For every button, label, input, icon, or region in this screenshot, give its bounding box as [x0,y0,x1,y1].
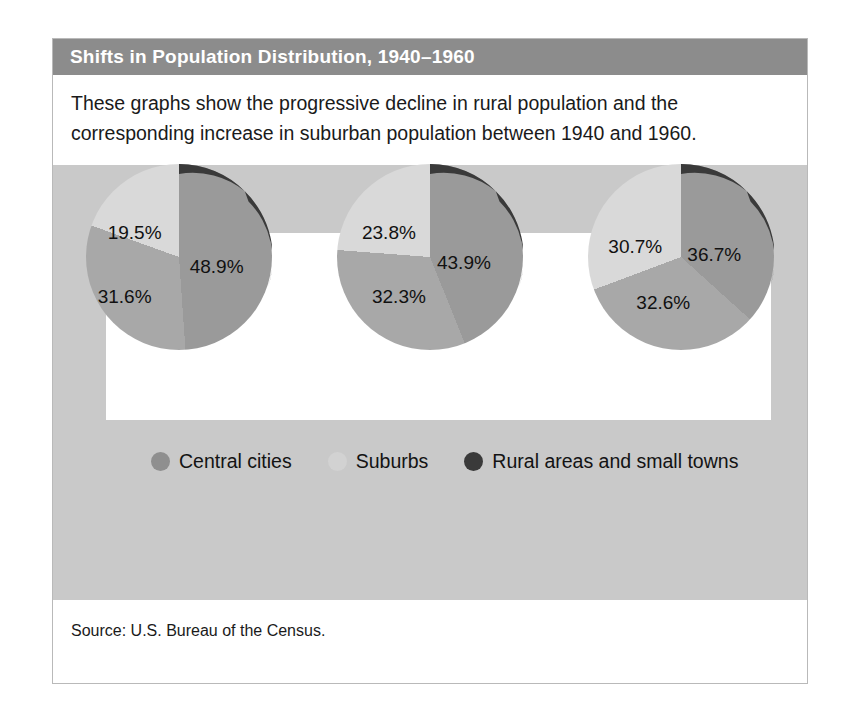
source-footer: Source: U.S. Bureau of the Census. [53,600,807,683]
legend-swatch-rural-icon [464,452,483,471]
legend-swatch-central-cities-icon [151,452,170,471]
pie-chart-group: 48.9% 19.5% 31.6% 43.9% 23.8% 32.3% [53,127,807,387]
pie-label-rural-1950: 32.3% [372,286,426,308]
legend-label-suburbs: Suburbs [356,450,429,473]
pie-label-central-1940: 48.9% [190,256,244,278]
chart-region: 1940 1950 1960 48.9% 19.5% 31.6% [53,165,807,600]
pie-label-rural-1960: 32.6% [636,292,690,314]
legend-item-rural: Rural areas and small towns [464,450,738,473]
pie-label-suburbs-1960: 30.7% [608,236,662,258]
figure-title: Shifts in Population Distribution, 1940–… [53,46,475,68]
pie-chart-1950: 43.9% 23.8% 32.3% [337,164,523,350]
rural-rim-1950 [337,164,523,350]
chart-legend: Central cities Suburbs Rural areas and s… [53,441,807,481]
legend-item-suburbs: Suburbs [328,450,429,473]
legend-label-central-cities: Central cities [179,450,292,473]
pie-label-central-1960: 36.7% [687,244,741,266]
pie-label-central-1950: 43.9% [437,252,491,274]
legend-label-rural: Rural areas and small towns [492,450,738,473]
pie-chart-1960: 36.7% 30.7% 32.6% [588,164,774,350]
figure-container: Shifts in Population Distribution, 1940–… [52,38,808,684]
legend-item-central-cities: Central cities [151,450,292,473]
figure-title-bar: Shifts in Population Distribution, 1940–… [53,39,807,75]
figure-page: Shifts in Population Distribution, 1940–… [0,0,856,714]
source-text: Source: U.S. Bureau of the Census. [71,622,325,639]
pie-chart-1940: 48.9% 19.5% 31.6% [86,164,272,350]
pie-label-suburbs-1950: 23.8% [362,222,416,244]
legend-swatch-suburbs-icon [328,452,347,471]
pie-label-rural-1940: 31.6% [98,286,152,308]
pie-label-suburbs-1940: 19.5% [108,222,162,244]
rural-rim-1940 [86,164,272,350]
